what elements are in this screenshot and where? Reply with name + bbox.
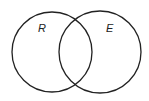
set-e-label: E xyxy=(106,22,114,34)
set-e-circle xyxy=(59,11,141,93)
set-r-circle xyxy=(12,12,92,92)
venn-diagram: R E xyxy=(0,0,149,101)
set-r-label: R xyxy=(38,22,46,34)
